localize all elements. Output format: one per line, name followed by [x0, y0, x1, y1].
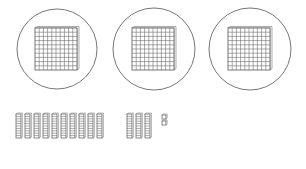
tens-group-2 [127, 113, 152, 138]
ten-rod [25, 113, 32, 138]
ones-group [162, 114, 167, 125]
ten-rod [43, 113, 50, 138]
hundred-flat [132, 27, 176, 71]
ten-rod [127, 113, 134, 138]
hundred-flat [35, 27, 79, 71]
hundred-group-2 [113, 8, 195, 90]
ten-rod [136, 113, 143, 138]
one-unit [162, 114, 167, 119]
ten-rod [34, 113, 41, 138]
ten-rod [61, 113, 68, 138]
ten-rod [16, 113, 23, 138]
ten-rod [79, 113, 86, 138]
blocks-canvas [0, 0, 306, 169]
ten-rod [70, 113, 77, 138]
ten-rod [88, 113, 95, 138]
ten-rod [52, 113, 59, 138]
hundred-group-1 [17, 9, 97, 89]
hundred-flat [228, 27, 272, 71]
hundred-group-3 [209, 8, 291, 90]
base-ten-blocks-figure [0, 0, 306, 169]
tens-group-1 [16, 113, 104, 138]
ten-rod [97, 113, 104, 138]
ten-rod [145, 113, 152, 138]
one-unit [162, 120, 167, 125]
